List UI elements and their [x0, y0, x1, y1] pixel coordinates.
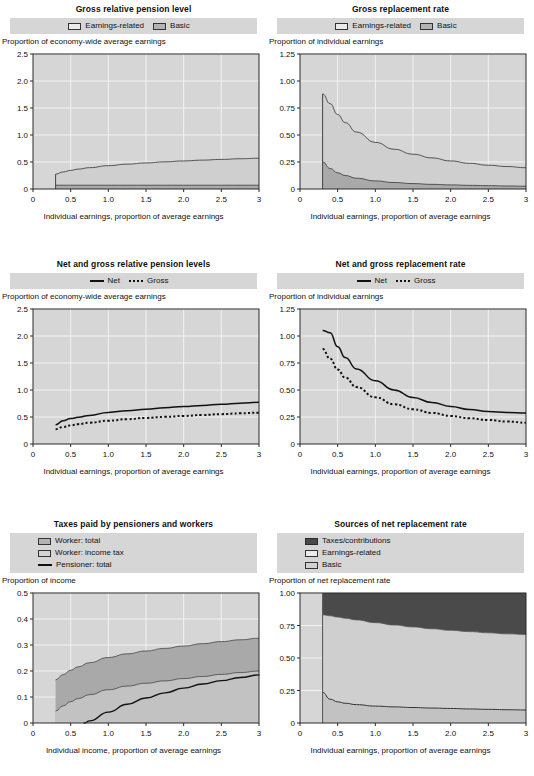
x-axis-label: Individual earnings, proportion of avera… [267, 746, 534, 756]
svg-text:0.4: 0.4 [17, 615, 29, 624]
svg-text:0: 0 [291, 719, 296, 728]
chart-title: Net and gross replacement rate [267, 255, 534, 270]
chart-title: Net and gross relative pension levels [0, 255, 267, 270]
legend-item[interactable]: Taxes/contributions [305, 536, 417, 546]
y-axis-label: Proportion of net replacement rate [269, 576, 534, 586]
svg-text:3: 3 [257, 195, 262, 204]
svg-text:1.00: 1.00 [279, 332, 295, 341]
legend-label: Worker: total [55, 536, 100, 546]
legend-item[interactable]: Earnings-related [68, 21, 144, 31]
svg-text:0.75: 0.75 [279, 622, 295, 631]
legend-swatch-icon [305, 562, 318, 569]
y-axis-label: Proportion of economy-wide average earni… [2, 37, 267, 47]
svg-text:0.50: 0.50 [279, 131, 295, 140]
legend-dotted-line-icon [129, 280, 143, 282]
svg-text:2.5: 2.5 [483, 195, 495, 204]
legend-label: Earnings-related [85, 21, 144, 31]
svg-text:1.5: 1.5 [407, 729, 419, 738]
legend-item[interactable]: Basic [153, 21, 190, 31]
svg-text:1.0: 1.0 [103, 729, 115, 738]
legend-item[interactable]: Worker: income tax [38, 548, 150, 558]
svg-text:1.5: 1.5 [17, 359, 29, 368]
svg-text:0: 0 [24, 440, 29, 449]
chart-svg: 00.250.500.751.0000.51.01.52.02.53 [267, 587, 534, 747]
legend-item[interactable]: Net [90, 276, 120, 286]
y-axis-label: Proportion of income [2, 576, 267, 586]
chart-legend: Net Gross [10, 273, 257, 289]
legend-item[interactable]: Worker: total [38, 536, 150, 546]
svg-text:1.0: 1.0 [103, 195, 115, 204]
legend-item[interactable]: Gross [129, 276, 168, 286]
legend-item[interactable]: Net [357, 276, 387, 286]
svg-text:2.5: 2.5 [17, 50, 29, 59]
svg-text:0: 0 [298, 729, 303, 738]
svg-text:1.5: 1.5 [407, 195, 419, 204]
svg-text:3: 3 [524, 729, 529, 738]
svg-text:1.0: 1.0 [370, 195, 382, 204]
legend-solid-line-icon [357, 280, 371, 282]
legend-item[interactable]: Basic [305, 560, 417, 570]
chart-title: Gross replacement rate [267, 0, 534, 15]
svg-text:0: 0 [291, 440, 296, 449]
svg-text:0.25: 0.25 [279, 687, 295, 696]
legend-label: Pensioner: total [56, 560, 112, 570]
legend-swatch-icon [68, 23, 81, 30]
plot-area: 00.51.01.52.02.500.51.01.52.02.53 [0, 48, 267, 213]
legend-item[interactable]: Gross [396, 276, 435, 286]
legend-item[interactable]: Pensioner: total [38, 560, 150, 570]
chart-legend: Worker: total Worker: income tax Pension… [10, 533, 257, 573]
panel-taxes-paid-by-pensioners-and-workers: Taxes paid by pensioners and workers Wor… [0, 515, 267, 776]
svg-text:0: 0 [24, 719, 29, 728]
legend-label: Gross [147, 276, 168, 286]
svg-text:0.5: 0.5 [65, 450, 77, 459]
chart-svg: 00.250.500.751.001.2500.51.01.52.02.53 [267, 48, 534, 213]
chart-svg: 00.51.01.52.02.500.51.01.52.02.53 [0, 303, 267, 468]
chart-legend: Earnings-related Basic [10, 18, 257, 34]
svg-text:0.50: 0.50 [279, 386, 295, 395]
svg-text:1.0: 1.0 [17, 131, 29, 140]
legend-label: Basic [170, 21, 190, 31]
svg-text:2.0: 2.0 [445, 450, 457, 459]
legend-label: Net [375, 276, 387, 286]
svg-text:0.5: 0.5 [332, 450, 344, 459]
svg-text:2.5: 2.5 [216, 450, 228, 459]
svg-text:2.5: 2.5 [216, 729, 228, 738]
svg-text:1.5: 1.5 [407, 450, 419, 459]
legend-label: Taxes/contributions [322, 536, 390, 546]
chart-title: Gross relative pension level [0, 0, 267, 15]
legend-item[interactable]: Earnings-related [335, 21, 411, 31]
svg-text:1.0: 1.0 [103, 450, 115, 459]
legend-item[interactable]: Basic [420, 21, 457, 31]
svg-text:3: 3 [524, 450, 529, 459]
plot-area: 00.250.500.751.001.2500.51.01.52.02.53 [267, 48, 534, 213]
legend-item[interactable]: Earnings-related [305, 548, 417, 558]
svg-text:0.3: 0.3 [17, 641, 29, 650]
svg-text:0.50: 0.50 [279, 654, 295, 663]
svg-text:0.5: 0.5 [17, 589, 29, 598]
panel-gross-relative-pension-level: Gross relative pension level Earnings-re… [0, 0, 267, 255]
legend-label: Basic [437, 21, 457, 31]
chart-legend: Net Gross [277, 273, 524, 289]
legend-swatch-icon [335, 23, 348, 30]
svg-text:0.5: 0.5 [65, 195, 77, 204]
svg-text:0.75: 0.75 [279, 104, 295, 113]
legend-label: Worker: income tax [55, 548, 124, 558]
y-axis-label: Proportion of individual earnings [269, 292, 534, 302]
panel-net-and-gross-relative-pension-levels: Net and gross relative pension levels Ne… [0, 255, 267, 515]
x-axis-label: Individual earnings, proportion of avera… [0, 467, 267, 477]
svg-text:0.5: 0.5 [332, 729, 344, 738]
x-axis-label: Individual earnings, proportion of avera… [267, 467, 534, 477]
svg-text:1.5: 1.5 [140, 195, 152, 204]
svg-text:1.5: 1.5 [17, 104, 29, 113]
svg-text:2.0: 2.0 [445, 195, 457, 204]
legend-swatch-icon [38, 538, 51, 545]
svg-text:2.0: 2.0 [178, 450, 190, 459]
chart-legend: Earnings-related Basic [277, 18, 524, 34]
svg-text:1.0: 1.0 [370, 729, 382, 738]
plot-area: 00.10.20.30.40.500.51.01.52.02.53 [0, 587, 267, 747]
svg-text:0: 0 [31, 450, 36, 459]
chart-title: Taxes paid by pensioners and workers [0, 515, 267, 530]
legend-swatch-icon [420, 23, 433, 30]
chart-svg: 00.250.500.751.001.2500.51.01.52.02.53 [267, 303, 534, 468]
svg-text:0.1: 0.1 [17, 693, 29, 702]
